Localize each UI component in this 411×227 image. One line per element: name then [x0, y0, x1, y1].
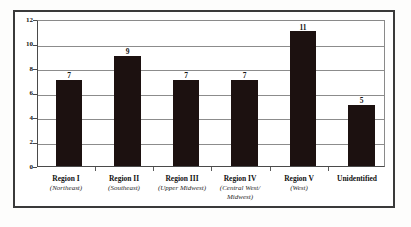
x-tick-2 — [153, 167, 154, 171]
gridline-10 — [38, 46, 384, 47]
category-label-region-2: Region II (Southeast) — [95, 174, 153, 193]
x-tick-3 — [211, 167, 212, 171]
category-sub-region-4-line1: (Central West/ — [209, 184, 271, 194]
y-tick-mark-2 — [33, 143, 37, 144]
x-tick-1 — [95, 167, 96, 171]
y-tick-mark-8 — [33, 69, 37, 70]
category-sub-region-2: (Southeast) — [95, 184, 153, 194]
y-tick-label-0: 0 — [15, 164, 33, 171]
y-tick-label-12: 12 — [15, 17, 33, 24]
category-name-region-2: Region II — [95, 174, 153, 184]
bar-value-region-2: 9 — [114, 48, 141, 56]
category-name-region-5: Region V — [270, 174, 328, 184]
category-label-unidentified: Unidentified — [326, 174, 388, 184]
bar-value-region-5: 11 — [290, 24, 316, 32]
figure-page: 7 9 7 7 11 5 12 10 8 6 4 2 0 Region I — [0, 0, 411, 227]
category-name-region-4: Region IV — [209, 174, 271, 184]
y-tick-mark-10 — [33, 45, 37, 46]
y-tick-label-2: 2 — [15, 139, 33, 146]
category-name-region-1: Region I — [37, 174, 95, 184]
category-label-region-4: Region IV (Central West/ Midwest) — [209, 174, 271, 203]
category-label-region-3: Region III (Upper Midwest) — [152, 174, 212, 193]
category-sub-region-5: (West) — [270, 184, 328, 194]
category-label-region-5: Region V (West) — [270, 174, 328, 193]
x-tick-4 — [270, 167, 271, 171]
gridline-8 — [38, 70, 384, 71]
bar-value-unidentified: 5 — [348, 97, 375, 105]
category-sub-region-1: (Northeast) — [37, 184, 95, 194]
bar-region-3 — [173, 80, 199, 166]
y-tick-mark-4 — [33, 118, 37, 119]
y-tick-label-4: 4 — [15, 115, 33, 122]
gridline-4 — [38, 119, 384, 120]
gridline-2 — [38, 144, 384, 145]
category-name-unidentified: Unidentified — [326, 174, 388, 184]
x-tick-5 — [328, 167, 329, 171]
y-tick-label-8: 8 — [15, 66, 33, 73]
category-sub-region-4-line2: Midwest) — [209, 193, 271, 203]
category-sub-region-3: (Upper Midwest) — [152, 184, 212, 194]
bar-unidentified — [348, 105, 375, 166]
category-name-region-3: Region III — [152, 174, 212, 184]
bar-region-1 — [56, 80, 82, 166]
category-label-region-1: Region I (Northeast) — [37, 174, 95, 193]
bar-chart: 7 9 7 7 11 5 12 10 8 6 4 2 0 Region I — [13, 10, 395, 208]
y-tick-mark-0 — [33, 167, 37, 168]
y-tick-label-6: 6 — [15, 90, 33, 97]
bar-value-region-4: 7 — [231, 72, 258, 80]
plot-area: 7 9 7 7 11 5 — [37, 20, 385, 167]
bar-region-5 — [290, 31, 316, 166]
y-tick-label-10: 10 — [15, 41, 33, 48]
bar-value-region-1: 7 — [56, 72, 82, 80]
gridline-6 — [38, 95, 384, 96]
bar-value-region-3: 7 — [173, 72, 199, 80]
bar-region-4 — [231, 80, 258, 166]
bar-region-2 — [114, 56, 141, 166]
y-tick-mark-6 — [33, 94, 37, 95]
y-tick-mark-12 — [33, 20, 37, 21]
